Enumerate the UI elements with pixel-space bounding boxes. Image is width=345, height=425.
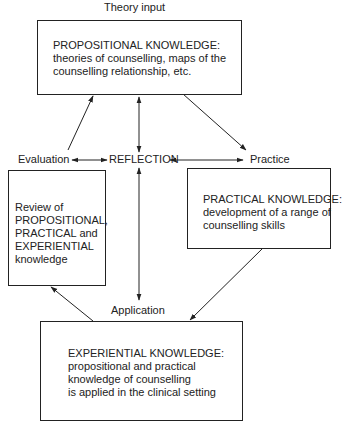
propositional-heading: PROPOSITIONAL KNOWLEDGE: [53, 39, 226, 52]
review-line: EXPERIENTIAL [15, 240, 108, 253]
practical-heading: PRACTICAL KNOWLEDGE: [203, 193, 342, 206]
review-line: knowledge [15, 253, 108, 266]
reflection-label: REFLECTION [109, 153, 179, 166]
review-line: Review of [15, 201, 108, 214]
theory-input-label: Theory input [104, 1, 165, 14]
arrow-evaluation-to-propositional [68, 96, 93, 150]
practical-line: counselling skills [203, 219, 342, 232]
arrow-experiential-to-review [51, 287, 93, 321]
propositional-line: theories of counselling, maps of the [53, 52, 226, 65]
arrow-propositional-to-practice [183, 94, 246, 150]
propositional-line: counselling relationship, etc. [53, 65, 226, 78]
review-line: PROPOSITIONAL, [15, 214, 108, 227]
practice-label: Practice [250, 153, 290, 166]
evaluation-label: Evaluation [18, 153, 69, 166]
experiential-line: knowledge of counselling [68, 373, 224, 386]
review-box: Review of PROPOSITIONAL, PRACTICAL and E… [8, 170, 106, 286]
review-line: PRACTICAL and [15, 227, 108, 240]
experiential-knowledge-box: EXPERIENTIAL KNOWLEDGE: propositional an… [40, 321, 243, 421]
application-label: Application [111, 304, 165, 317]
practical-knowledge-box: PRACTICAL KNOWLEDGE: development of a ra… [187, 168, 331, 249]
experiential-line: is applied in the clinical setting [68, 386, 224, 399]
propositional-knowledge-box: PROPOSITIONAL KNOWLEDGE: theories of cou… [37, 20, 242, 95]
practical-line: development of a range of [203, 206, 342, 219]
arrow-practical-to-experiential [190, 248, 263, 320]
experiential-heading: EXPERIENTIAL KNOWLEDGE: [68, 347, 224, 360]
experiential-line: propositional and practical [68, 360, 224, 373]
